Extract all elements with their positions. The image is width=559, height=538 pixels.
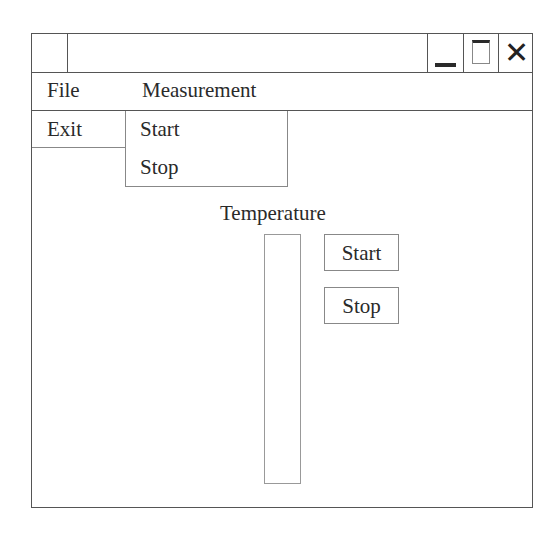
- maximize-button[interactable]: [463, 34, 499, 72]
- menu-bar: File Measurement: [32, 72, 532, 111]
- temperature-bar-gauge: [264, 234, 301, 484]
- minimize-button[interactable]: [427, 34, 463, 72]
- stop-button[interactable]: Stop: [324, 287, 399, 324]
- maximize-icon: [472, 40, 490, 64]
- menu-measurement[interactable]: Measurement: [142, 77, 256, 103]
- menu-item-start[interactable]: Start: [140, 116, 180, 142]
- file-dropdown-menu: Exit: [32, 111, 126, 148]
- menu-item-exit[interactable]: Exit: [47, 116, 82, 142]
- menu-item-stop[interactable]: Stop: [140, 154, 179, 180]
- start-button[interactable]: Start: [324, 234, 399, 271]
- minimize-icon: [435, 63, 456, 67]
- close-button[interactable]: ✕: [498, 34, 534, 72]
- application-window: ✕ File Measurement Exit Start Stop Tempe…: [31, 33, 533, 508]
- menu-file[interactable]: File: [47, 77, 80, 103]
- measurement-dropdown-menu: Start Stop: [125, 111, 288, 187]
- title-bar[interactable]: ✕: [32, 34, 532, 73]
- temperature-label: Temperature: [220, 200, 326, 226]
- window-icon[interactable]: [32, 34, 68, 72]
- close-icon: ✕: [504, 36, 529, 70]
